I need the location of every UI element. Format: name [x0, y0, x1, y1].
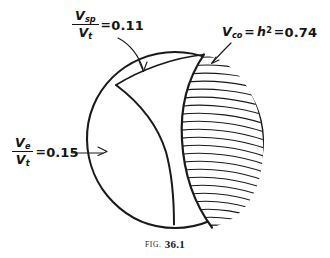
value-expanded: 0.15: [46, 146, 78, 159]
equals-sign: =: [99, 19, 112, 32]
figure-caption: FIG.36.1: [0, 234, 330, 252]
fraction-numerator: Ve: [12, 136, 33, 150]
equals-sign: =: [33, 146, 46, 159]
fraction-numerator: Vsp: [72, 9, 99, 23]
label-spontaneous-volume-ratio: Vsp Vt = 0.11: [72, 10, 144, 41]
caption-number: 36.1: [162, 238, 185, 250]
caption-prefix: FIG.: [145, 240, 162, 249]
fraction-denominator: Vt: [12, 153, 33, 167]
value-spontaneous: 0.11: [111, 19, 143, 32]
symbol-h-squared: h2: [255, 24, 272, 39]
label-collapsed-volume: Vco=h2=0.74: [222, 26, 317, 39]
equals-sign-1: =: [242, 26, 255, 39]
value-collapsed: 0.74: [285, 26, 317, 39]
fraction-ve-vt: Ve Vt: [12, 136, 33, 167]
fraction-vsp-vt: Vsp Vt: [72, 9, 99, 40]
label-expanded-volume-ratio: Ve Vt = 0.15: [12, 137, 79, 168]
symbol-vco: Vco: [222, 24, 242, 39]
figure-page: Vsp Vt = 0.11 Vco=h2=0.74 Ve Vt = 0.15 F…: [0, 0, 330, 258]
leader-arrow-collapsed: [212, 43, 232, 64]
equals-sign-2: =: [272, 26, 285, 39]
fraction-denominator: Vt: [72, 26, 99, 40]
